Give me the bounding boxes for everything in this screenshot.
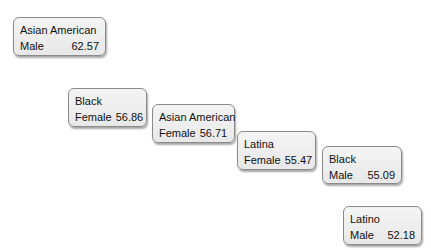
- node-black-female: Black Female 56.86: [68, 88, 147, 127]
- gender-label: Male: [350, 227, 374, 243]
- gender-label: Female: [159, 125, 196, 141]
- score-value: 52.18: [387, 227, 415, 243]
- group-label: Asian American: [159, 109, 228, 125]
- score-value: 56.86: [116, 109, 144, 125]
- score-value: 62.57: [71, 38, 99, 54]
- score-value: 55.09: [367, 167, 395, 183]
- node-asian-american-male: Asian American Male 62.57: [13, 17, 106, 56]
- node-black-male: Black Male 55.09: [322, 146, 402, 184]
- group-label: Latina: [244, 136, 309, 152]
- gender-label: Male: [329, 167, 353, 183]
- gender-label: Female: [75, 109, 112, 125]
- gender-label: Male: [20, 38, 44, 54]
- gender-label: Female: [244, 152, 281, 168]
- node-asian-american-female: Asian American Female 56.71: [152, 104, 235, 143]
- node-latina-female: Latina Female 55.47: [237, 131, 316, 170]
- group-label: Latino: [350, 211, 415, 227]
- score-value: 55.47: [285, 152, 313, 168]
- group-label: Black: [329, 151, 395, 167]
- group-label: Black: [75, 93, 140, 109]
- score-value: 56.71: [200, 125, 228, 141]
- node-latino-male: Latino Male 52.18: [343, 206, 422, 245]
- group-label: Asian American: [20, 22, 99, 38]
